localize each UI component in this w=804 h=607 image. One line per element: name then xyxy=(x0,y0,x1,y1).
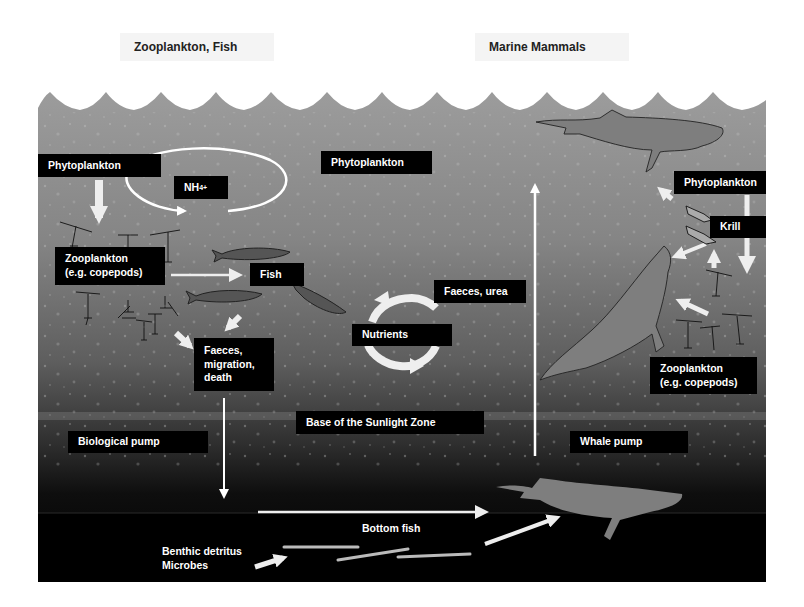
zooplankton-left-line1: Zooplankton xyxy=(65,252,128,266)
zooplankton-right-line1: Zooplankton xyxy=(660,362,723,376)
label-phytoplankton-center: Phytoplankton xyxy=(321,151,432,174)
label-phytoplankton-right: Phytoplankton xyxy=(674,171,766,194)
benthic-line1: Benthic detritus xyxy=(162,545,242,559)
label-nh4: NH4+ xyxy=(174,176,228,199)
label-fish: Fish xyxy=(250,263,304,286)
faeces-line2: migration, xyxy=(204,358,255,372)
faeces-line3: death xyxy=(204,371,232,385)
label-bottom-fish: Bottom fish xyxy=(352,520,452,538)
label-faeces-migration-death: Faeces, migration, death xyxy=(194,338,274,391)
nh4-superscript: + xyxy=(203,183,207,192)
label-nutrients: Nutrients xyxy=(352,324,452,346)
benthic-line2: Microbes xyxy=(162,559,208,573)
label-faeces-urea: Faeces, urea xyxy=(434,280,526,303)
label-benthic-detritus-microbes: Benthic detritus Microbes xyxy=(152,545,262,577)
label-zooplankton-right: Zooplankton (e.g. copepods) xyxy=(650,357,757,394)
label-krill: Krill xyxy=(710,216,766,238)
zooplankton-right-line2: (e.g. copepods) xyxy=(660,376,738,390)
zooplankton-left-line2: (e.g. copepods) xyxy=(65,266,143,280)
ocean-diagram xyxy=(0,0,804,607)
label-biological-pump: Biological pump xyxy=(68,431,208,453)
nh4-text: NH xyxy=(184,181,199,195)
label-phytoplankton-left: Phytoplankton xyxy=(38,154,161,177)
label-zooplankton-left: Zooplankton (e.g. copepods) xyxy=(55,247,165,285)
label-base-sunlight-zone: Base of the Sunlight Zone xyxy=(296,411,484,434)
label-whale-pump: Whale pump xyxy=(570,431,688,453)
faeces-line1: Faeces, xyxy=(204,344,243,358)
